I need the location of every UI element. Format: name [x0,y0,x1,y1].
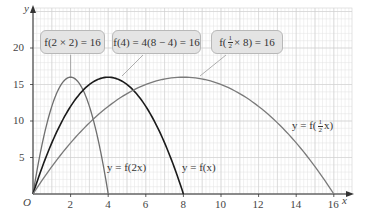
curve-label-text: y = f(2x) [107,161,146,173]
x-tick-label: 6 [143,198,149,210]
x-tick-label: 8 [180,198,186,210]
x-tick-label: 14 [290,198,301,210]
curve-label-f2x: y = f(2x) [107,161,146,173]
origin-label: O [23,196,31,208]
x-tick-label: 10 [215,198,226,210]
curve-label-text: y = f(x) [182,161,216,173]
callout3-prefix: f( [219,36,226,48]
curve-label-suffix: x) [324,119,333,131]
callout-leaders [71,55,226,77]
fraction: 12 [228,35,234,50]
callout-fx: f(4) = 4(8 − 4) = 16 [112,30,201,54]
x-axis-label: x [342,194,347,206]
callout-fhalf: f(12 × 8) = 16 [211,30,283,54]
y-tick-label: 20 [13,41,24,53]
y-tick-label: 10 [13,114,24,126]
frac-den: 2 [319,127,323,134]
y-tick-label: 15 [13,78,24,90]
frac-den: 2 [229,43,233,50]
fraction: 12 [318,119,324,134]
y-tick-label: 5 [19,151,25,163]
y-axis-label: y [24,2,29,14]
curve-label-fhalf: y = f(12x) [292,119,333,134]
x-tick-label: 4 [105,198,111,210]
curve-label-prefix: y = f( [292,119,317,131]
callout3-suffix: × 8) = 16 [234,36,275,48]
x-tick-label: 16 [328,198,339,210]
callout-f2x: f(2 × 2) = 16 [40,30,105,54]
x-tick-label: 2 [68,198,74,210]
curve-label-fx: y = f(x) [182,161,216,173]
x-tick-label: 12 [253,198,264,210]
